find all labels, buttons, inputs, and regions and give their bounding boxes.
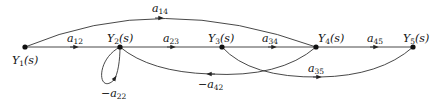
node-Y4 xyxy=(313,44,318,49)
label-a14: a14 xyxy=(152,2,168,16)
label-a45: a45 xyxy=(367,32,383,46)
label-a12: a12 xyxy=(67,32,83,46)
label-Y2: Y2(s) xyxy=(107,32,133,46)
label-a23: a23 xyxy=(163,32,179,46)
label-Y5: Y5(s) xyxy=(403,32,429,46)
label-a22: −a22 xyxy=(101,87,127,101)
edge-a22 xyxy=(102,47,120,84)
label-a35: a35 xyxy=(308,62,324,76)
label-Y1: Y1(s) xyxy=(12,54,38,68)
edge-a42 xyxy=(120,47,316,74)
label-a42: −a42 xyxy=(198,78,224,92)
node-Y1 xyxy=(22,44,27,49)
label-Y3: Y3(s) xyxy=(208,32,234,46)
signal-flow-graph: Y1(s) Y2(s) Y3(s) Y4(s) Y5(s) a12 a23 a3… xyxy=(0,0,435,101)
node-Y3 xyxy=(219,44,224,49)
label-Y4: Y4(s) xyxy=(318,32,344,46)
